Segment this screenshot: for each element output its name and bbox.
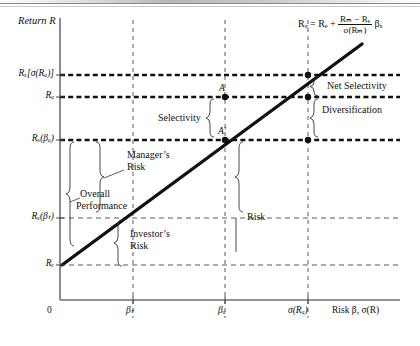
annotation-managers-risk-line1: Manager’s	[127, 150, 170, 160]
annotation-net-selectivity: Net Selectivity	[327, 81, 387, 91]
vertical-reference-lines	[133, 20, 308, 318]
formula-tail: βₓ	[374, 18, 382, 29]
formula-denominator: σ(Rₘ)	[338, 25, 372, 35]
plot-points	[222, 72, 311, 143]
point-label-A-prime: A′	[218, 127, 226, 137]
y-tick-Rx-beta-a: Rₓ(βₐ)	[0, 134, 54, 144]
y-tick-Rx-beta-T: Rₓ(βₜ)	[0, 212, 54, 222]
x-tick-sigma-Ra: σ(Rₐ)	[288, 306, 308, 316]
formula-lhs: Rₓ = Rₑ +	[298, 18, 336, 29]
annotation-investors-risk-line2: Risk	[130, 241, 148, 251]
x-axis-title: Risk β, σ(R)	[332, 306, 379, 316]
x-tick-beta-T: βₜ	[126, 306, 134, 316]
y-tick-Rx-sigma-Ra: Rₓ[σ(Rₐ)]	[0, 69, 54, 79]
risk-return-diagram: .ax { stroke:#6f6f6f; stroke-width:1.6; …	[0, 0, 420, 346]
brace-overall-performance	[66, 142, 80, 246]
annotation-selectivity: Selectivity	[158, 113, 201, 123]
point-sigma-mid	[305, 94, 311, 100]
point-sigma-top	[305, 72, 311, 78]
formula-fraction: Rₘ − Rₑ σ(Rₘ)	[338, 14, 372, 36]
capm-formula: Rₓ = Rₑ + Rₘ − Rₑ σ(Rₘ) βₓ	[298, 14, 382, 36]
annotation-overall-line2: Performance	[76, 201, 127, 211]
annotation-investors-risk-line1: Investor’s	[130, 229, 170, 239]
annotation-diversification: Diversification	[322, 105, 382, 115]
point-A-prime	[222, 137, 228, 143]
point-A	[222, 94, 228, 100]
origin-label: 0	[47, 306, 52, 316]
y-axis-title: Return R	[18, 16, 56, 27]
axes-group	[60, 18, 400, 300]
y-tick-Ra: Rₐ	[0, 91, 54, 101]
annotation-managers-risk-line2: Risk	[127, 162, 145, 172]
y-tick-Rf: Rₑ	[0, 259, 54, 269]
annotation-overall-line1: Overall	[80, 189, 110, 199]
formula-numerator: Rₘ − Rₑ	[338, 14, 372, 25]
x-tick-beta-a: βₐ	[218, 306, 226, 316]
point-sigma-low	[305, 137, 311, 143]
brace-selectivity	[206, 99, 214, 137]
point-label-A: A	[219, 84, 225, 94]
annotation-risk: Risk	[247, 212, 265, 222]
brace-diversification	[310, 99, 318, 137]
brace-risk	[235, 142, 243, 212]
